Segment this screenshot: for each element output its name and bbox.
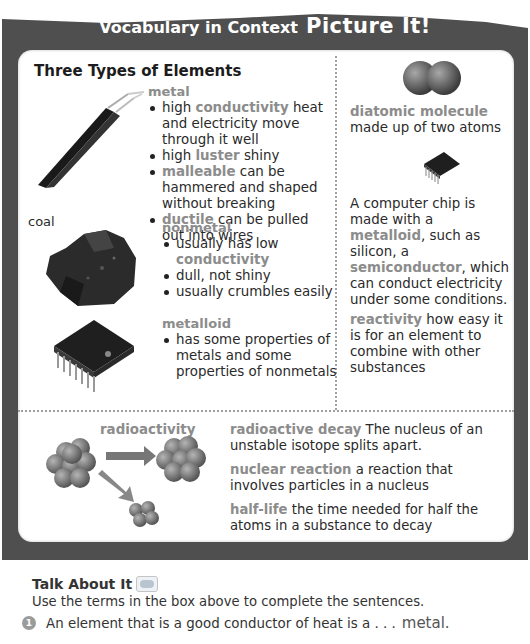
reactivity-definition: reactivity how easy it is for an element… <box>350 312 510 376</box>
vocabulary-panel: Three Types of Elements metal high condu… <box>18 50 514 542</box>
metal-item-malleable: malleable can be hammered and shaped wit… <box>148 164 333 212</box>
term-radioactive-decay: radioactive decay The nucleus of an unst… <box>230 422 510 454</box>
metalloid-block: metalloid has some properties of metals … <box>162 316 337 380</box>
chip-description: A computer chip is made with a metalloid… <box>350 196 510 308</box>
horizontal-divider <box>18 410 514 412</box>
diatomic-molecule-image <box>400 60 466 96</box>
question-number-badge: 1 <box>22 616 36 630</box>
metalloid-heading: metalloid <box>162 316 337 331</box>
nonmetal-item-2: dull, not shiny <box>162 268 337 284</box>
question-1: 1 An element that is a good conductor of… <box>22 614 450 632</box>
talk-instructions: Use the terms in the box above to comple… <box>32 594 424 609</box>
coal-label: coal <box>28 214 55 229</box>
term-half-life: half-life the time needed for half the a… <box>230 502 510 534</box>
term-nuclear-reaction: nuclear reaction a reaction that involve… <box>230 462 510 494</box>
metal-item-conductivity: high conductivity heat and electricity m… <box>148 100 333 148</box>
question-answer: metal. <box>402 614 450 632</box>
metalloid-chip-image <box>46 316 138 396</box>
coal-image <box>44 228 144 308</box>
title-vocabulary: Vocabulary in Context <box>99 18 298 37</box>
speech-bubbles-icon <box>136 576 158 592</box>
metal-wire-image <box>36 90 146 190</box>
metalloid-item-1: has some properties of metals and some p… <box>162 332 337 380</box>
title-picture-it: Picture It! <box>306 14 431 38</box>
nonmetal-block: nonmetal usually has low conductivity du… <box>162 220 337 300</box>
talk-title: Talk About It <box>32 576 424 592</box>
computer-chip-image <box>422 150 462 192</box>
nonmetal-item-3: usually crumbles easily <box>162 284 337 300</box>
talk-about-it-section: Talk About It Use the terms in the box a… <box>32 576 424 609</box>
question-text: An element that is a good conductor of h… <box>46 616 396 631</box>
page-title: Vocabulary in ContextPicture It! <box>0 14 530 38</box>
metal-item-luster: high luster shiny <box>148 148 333 164</box>
section-title: Three Types of Elements <box>34 62 241 80</box>
diatomic-definition: diatomic molecule made up of two atoms <box>350 104 510 136</box>
metal-heading: metal <box>148 84 333 99</box>
nonmetal-heading: nonmetal <box>162 220 337 235</box>
nonmetal-item-1: usually has low conductivity <box>162 236 337 268</box>
radioactivity-diagram <box>36 422 216 532</box>
nuclear-terms: radioactive decay The nucleus of an unst… <box>230 422 510 542</box>
